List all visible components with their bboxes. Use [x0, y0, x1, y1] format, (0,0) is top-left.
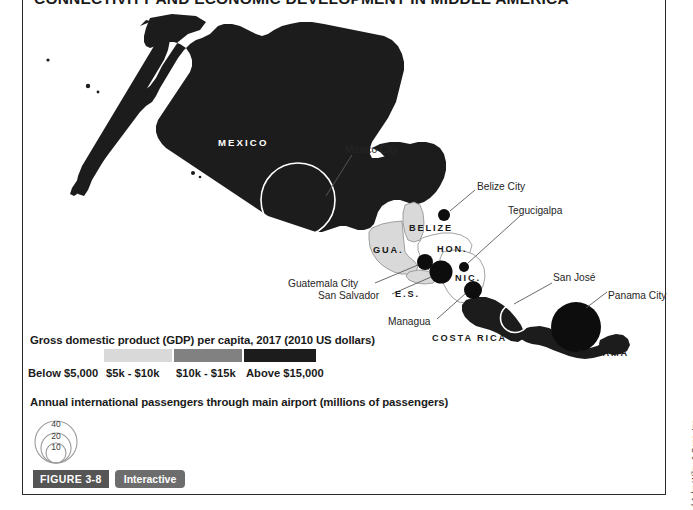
- country-label-el-salvador: E.S.: [395, 289, 420, 299]
- legend-airport-title: Annual international passengers through …: [30, 396, 410, 408]
- legend-label-above-15000: Above $15,000: [246, 367, 324, 379]
- legend-swatch-5k-10k: [104, 349, 172, 362]
- city-label-tegucigalpa: Tegucigalpa: [508, 205, 563, 216]
- city-label-guatemala-city: Guatemala City: [288, 278, 359, 289]
- airport-circle-managua[interactable]: [464, 281, 482, 299]
- legend-swatch-row: [30, 349, 410, 363]
- legend-circle-value-40: 40: [51, 419, 61, 429]
- country-label-mexico: MEXICO: [218, 137, 268, 148]
- leader-san-jose: [514, 283, 552, 304]
- country-belize[interactable]: [403, 202, 424, 242]
- city-label-managua: Managua: [388, 316, 431, 327]
- city-label-belize-city: Belize City: [477, 181, 526, 192]
- legend-circle-value-10: 10: [51, 442, 61, 452]
- legend-label-below-5000: Below $5,000: [28, 367, 98, 379]
- figure-number-badge: FIGURE 3-8: [33, 470, 109, 488]
- city-label-mexico-city: Mexico City: [345, 144, 399, 155]
- country-label-costa-rica: COSTA RICA: [432, 333, 507, 343]
- map-legend: Gross domestic product (GDP) per capita,…: [30, 334, 410, 462]
- country-label-panama: PANAMA: [578, 348, 629, 358]
- legend-label-row: Below $5,000 $5k - $10k $10k - $15k Abov…: [30, 367, 410, 383]
- interactive-button[interactable]: Interactive: [115, 470, 186, 488]
- legend-gdp-title: Gross domestic product (GDP) per capita,…: [30, 334, 410, 346]
- country-label-nicaragua: NIC.: [455, 273, 481, 283]
- airport-circle-tegucigalpa[interactable]: [459, 262, 469, 272]
- legend-swatch-10k-15k: [174, 349, 242, 362]
- airport-circle-san-salvador[interactable]: [430, 261, 453, 284]
- legend-label-5k-10k: $5k - $10k: [106, 367, 160, 379]
- country-mexico[interactable]: [46, 14, 446, 232]
- leader-panama-city: [586, 292, 607, 308]
- leader-managua: [437, 294, 465, 319]
- figure-container: CONNECTIVITY AND ECONOMIC DEVELOPMENT IN…: [0, 0, 693, 510]
- legend-circle-value-20: 20: [51, 431, 61, 441]
- country-label-guatemala: GUA.: [373, 245, 404, 255]
- figure-footer: FIGURE 3-8 Interactive: [33, 470, 185, 488]
- legend-label-10k-15k: $10k - $15k: [176, 367, 236, 379]
- legend-swatch-above-15000: [244, 349, 316, 362]
- country-label-honduras: HON.: [437, 244, 468, 254]
- country-label-belize: BELIZE: [409, 223, 453, 233]
- city-label-panama-city: Panama City: [608, 290, 667, 301]
- city-label-san-jose: San José: [553, 272, 596, 283]
- airport-circle-panama-city[interactable]: [551, 302, 601, 352]
- leader-tegucigalpa: [468, 216, 520, 263]
- airport-circle-belize-city[interactable]: [438, 209, 450, 221]
- city-label-san-salvador: San Salvador: [318, 290, 380, 301]
- legend-swatch-below-5000: [30, 349, 102, 362]
- leader-belize-city: [450, 190, 475, 211]
- legend-circle-scale: 40 20 10: [30, 412, 110, 462]
